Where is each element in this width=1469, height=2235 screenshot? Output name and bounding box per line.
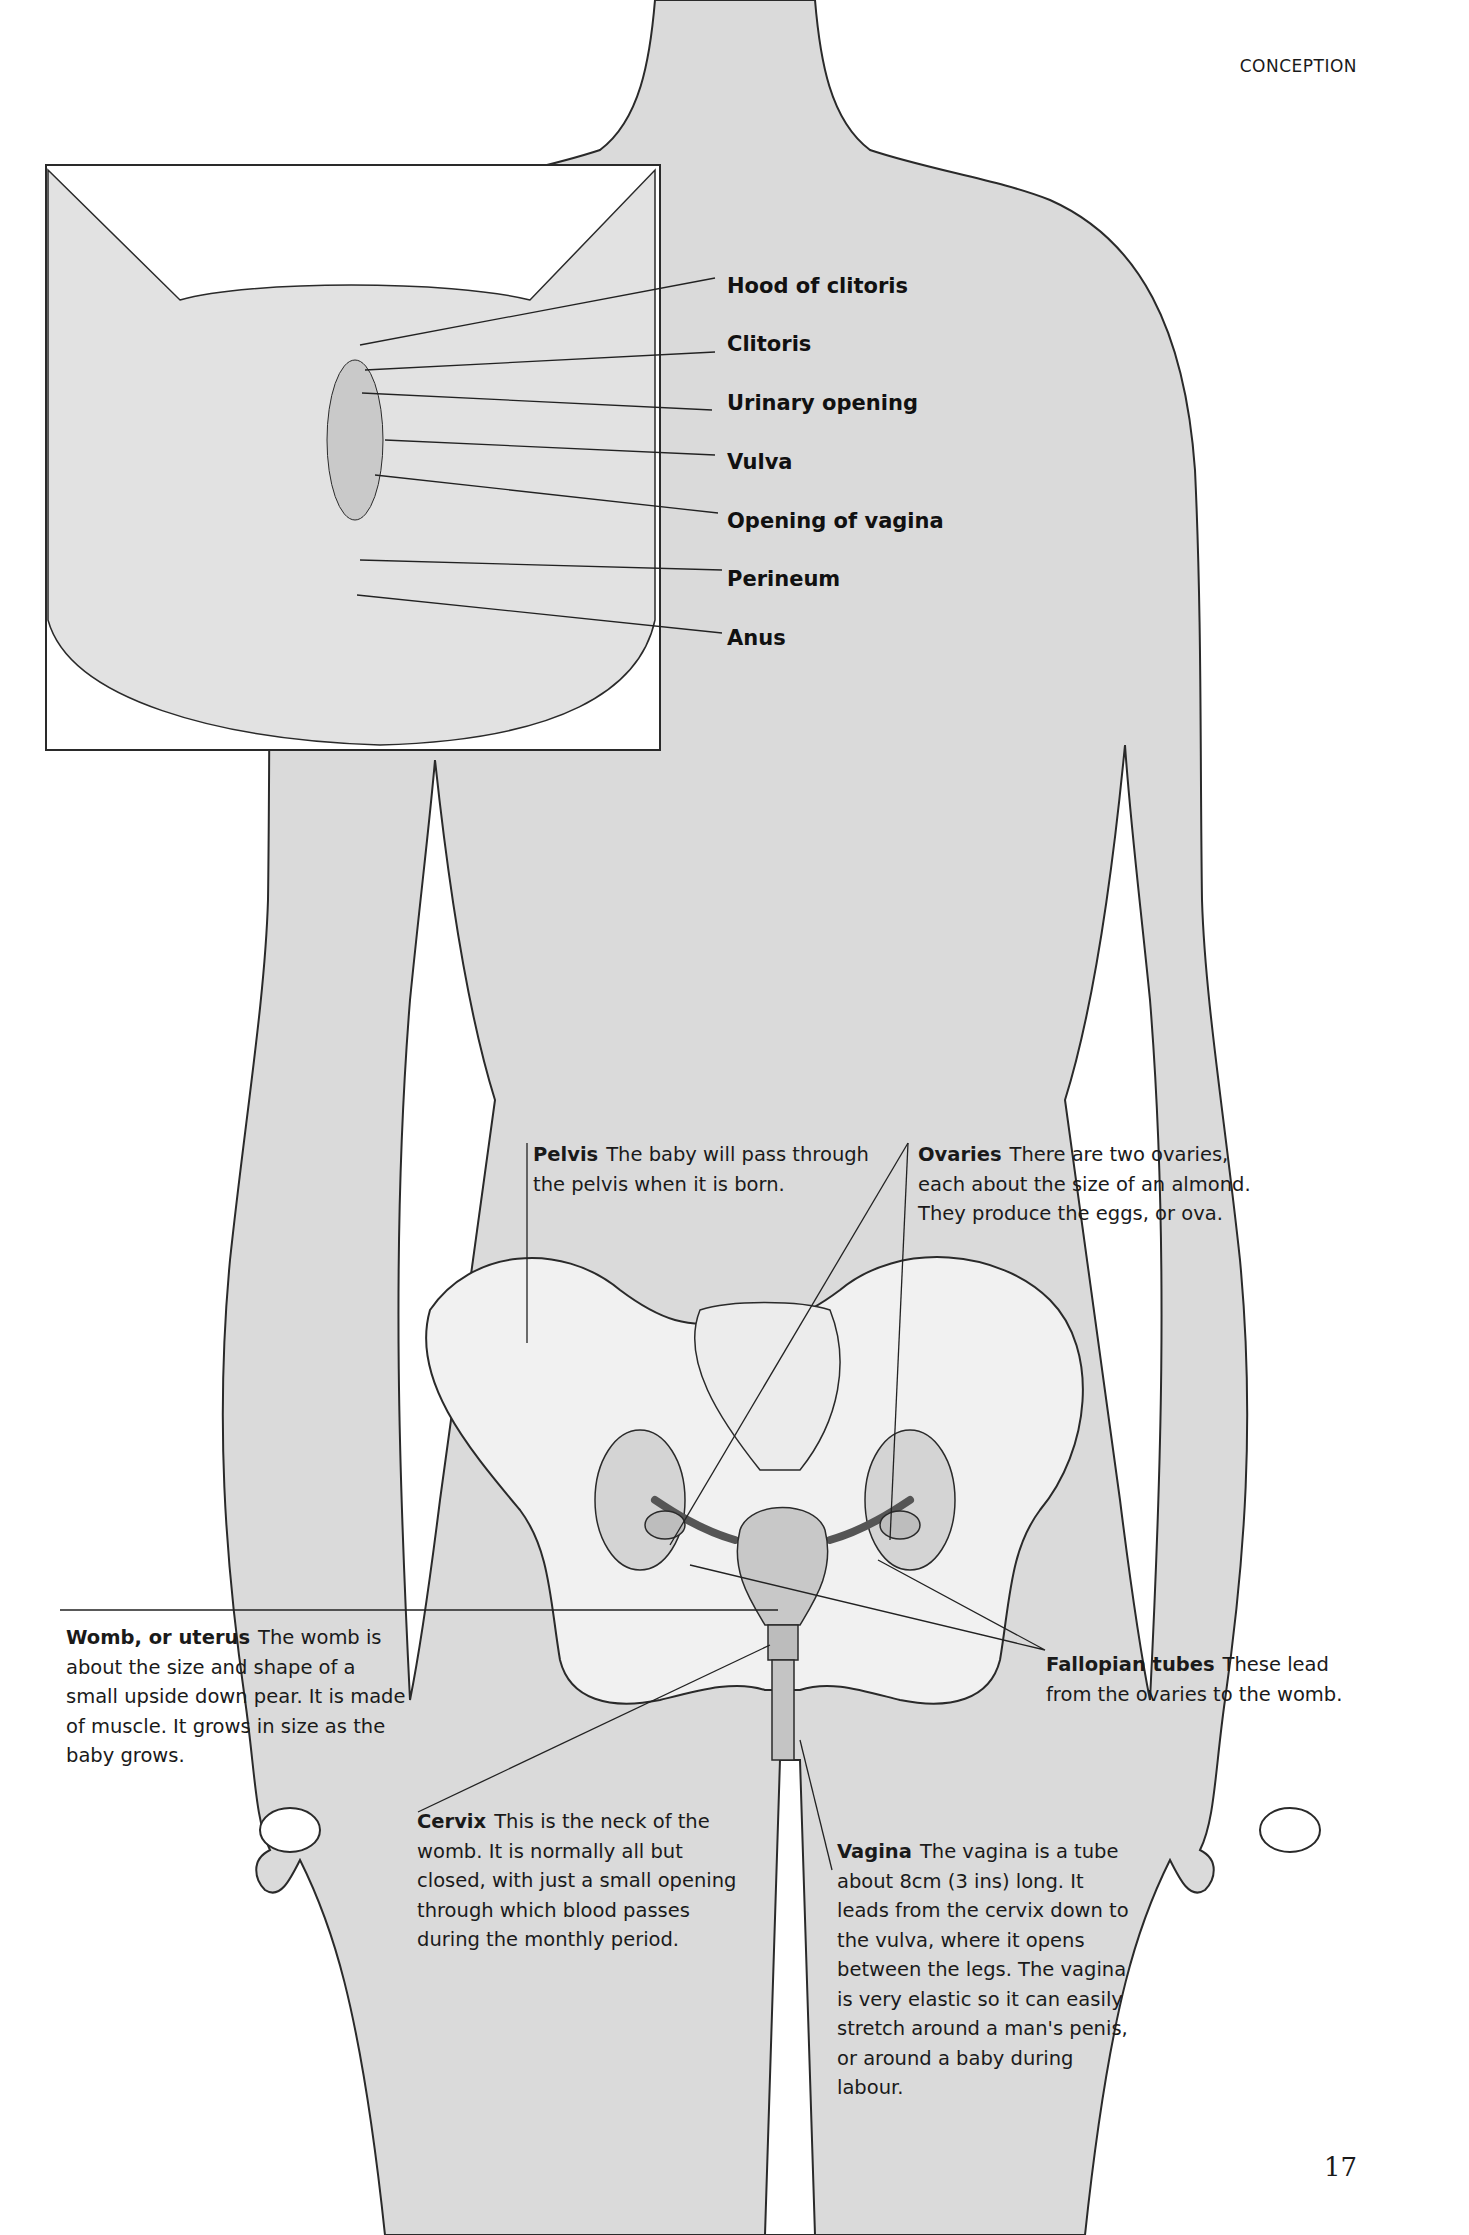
callout-term: Fallopian tubes bbox=[1046, 1653, 1215, 1676]
pelvic-opening-left bbox=[595, 1430, 685, 1570]
callout-ovaries: OvariesThere are two ovaries, each about… bbox=[918, 1140, 1258, 1229]
inset-region-marker bbox=[327, 360, 383, 520]
callout-term: Pelvis bbox=[533, 1143, 598, 1166]
label-vulva: Vulva bbox=[727, 450, 793, 474]
running-head: CONCEPTION bbox=[1240, 56, 1357, 76]
label-hood-of-clitoris: Hood of clitoris bbox=[727, 274, 908, 298]
callout-fallopian-tubes: Fallopian tubesThese lead from the ovari… bbox=[1046, 1650, 1356, 1709]
callout-term: Womb, or uterus bbox=[66, 1626, 250, 1649]
right-hand bbox=[1260, 1808, 1320, 1852]
page-number: 17 bbox=[1324, 2152, 1357, 2182]
label-clitoris: Clitoris bbox=[727, 332, 811, 356]
book-page: CONCEPTION Hood of clitoris Clitoris Uri… bbox=[0, 0, 1469, 2235]
ovary-right bbox=[880, 1511, 920, 1539]
callout-term: Cervix bbox=[417, 1810, 486, 1833]
vagina bbox=[772, 1660, 794, 1760]
callout-term: Ovaries bbox=[918, 1143, 1002, 1166]
callout-term: Vagina bbox=[837, 1840, 912, 1863]
callout-vagina: VaginaThe vagina is a tube about 8cm (3 … bbox=[837, 1837, 1137, 2103]
label-urinary-opening: Urinary opening bbox=[727, 391, 918, 415]
label-perineum: Perineum bbox=[727, 567, 840, 591]
label-anus: Anus bbox=[727, 626, 786, 650]
callout-pelvis: PelvisThe baby will pass through the pel… bbox=[533, 1140, 893, 1199]
callout-cervix: CervixThis is the neck of the womb. It i… bbox=[417, 1807, 742, 1955]
callout-womb: Womb, or uterusThe womb is about the siz… bbox=[66, 1623, 406, 1771]
callout-text: The vagina is a tube about 8cm (3 ins) l… bbox=[837, 1840, 1129, 2099]
left-hand bbox=[260, 1808, 320, 1852]
ovary-left bbox=[645, 1511, 685, 1539]
cervix bbox=[768, 1625, 798, 1660]
label-opening-of-vagina: Opening of vagina bbox=[727, 509, 944, 533]
inset-diagram bbox=[46, 165, 660, 750]
